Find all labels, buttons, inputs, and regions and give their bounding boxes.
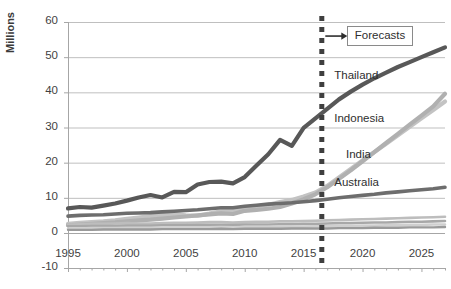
x-tick-label: 2010 <box>223 247 267 259</box>
y-tick-label: 30 <box>28 120 58 132</box>
y-tick-label: 60 <box>28 14 58 26</box>
chart-container: Millions -100102030405060 19952000200520… <box>0 0 451 289</box>
series-label-indonesia: Indonesia <box>334 112 384 124</box>
x-tick-label: 2015 <box>282 247 326 259</box>
x-tick-label: 2000 <box>105 247 149 259</box>
y-tick-label: 0 <box>28 225 58 237</box>
x-tick-label: 2005 <box>164 247 208 259</box>
series-label-thailand: Thailand <box>334 69 378 81</box>
y-tick-label: 50 <box>28 49 58 61</box>
x-tick-label: 2025 <box>399 247 443 259</box>
series-label-australia: Australia <box>334 176 379 188</box>
series-label-india: India <box>346 148 371 160</box>
y-tick-label: 10 <box>28 190 58 202</box>
x-tick-label: 2020 <box>341 247 385 259</box>
forecasts-annotation-box: Forecasts <box>347 26 414 46</box>
y-tick-label: 40 <box>28 84 58 96</box>
y-tick-label: -10 <box>28 260 58 272</box>
y-tick-label: 20 <box>28 155 58 167</box>
x-tick-label: 1995 <box>46 247 90 259</box>
